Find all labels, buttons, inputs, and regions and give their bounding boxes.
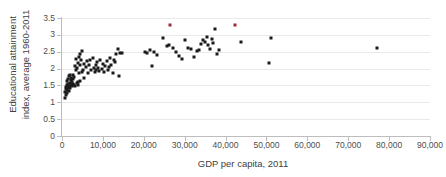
x-axis-tick — [430, 137, 431, 141]
data-point — [79, 79, 82, 82]
y-axis-title-line-2: index, average 1960-2011 — [19, 2, 32, 128]
x-axis-tick-label: 20,000 — [131, 140, 157, 150]
y-axis-tick-label: 1.5 — [33, 81, 55, 90]
data-point — [121, 52, 124, 55]
y-axis-tick-label: 3 — [33, 30, 55, 39]
data-point — [73, 76, 76, 79]
data-point — [207, 44, 210, 47]
data-point — [233, 23, 236, 26]
data-point — [175, 50, 178, 53]
y-axis-tick — [57, 119, 62, 120]
y-axis-tick — [57, 102, 62, 103]
data-point — [218, 49, 221, 52]
gridline — [62, 35, 430, 36]
data-point — [168, 43, 171, 46]
data-point — [155, 53, 158, 56]
x-axis-line — [61, 136, 431, 137]
data-point — [87, 64, 90, 67]
y-axis-tick — [57, 69, 62, 70]
x-axis-tick — [348, 137, 349, 141]
y-axis-title-line-1: Educational attainment — [7, 2, 20, 128]
data-point — [67, 90, 70, 93]
y-axis-tick-label: 3.5 — [33, 14, 55, 23]
y-axis-tick-label: 0.5 — [33, 115, 55, 124]
gridline — [62, 102, 430, 103]
data-point — [240, 40, 243, 43]
data-point — [209, 48, 212, 51]
data-point — [105, 60, 108, 63]
data-point — [86, 72, 89, 75]
data-point — [200, 43, 203, 46]
x-axis-tick — [226, 137, 227, 141]
data-point — [169, 24, 172, 27]
x-axis-tick-label: 40,000 — [213, 140, 239, 150]
x-axis-tick-label: 0 — [60, 140, 65, 150]
data-point — [375, 47, 378, 50]
data-point — [213, 28, 216, 31]
y-axis-tick-label: 2 — [33, 64, 55, 73]
gridline — [62, 69, 430, 70]
x-axis-tick-label: 10,000 — [90, 140, 116, 150]
x-axis-tick — [266, 137, 267, 141]
x-axis-tick-label: 90,000 — [417, 140, 443, 150]
data-point — [148, 49, 151, 52]
data-point — [81, 68, 84, 71]
data-point — [81, 50, 84, 53]
data-point — [114, 61, 117, 64]
data-point — [91, 57, 94, 60]
x-axis-tick-label: 50,000 — [253, 140, 279, 150]
data-point — [146, 51, 149, 54]
data-point — [267, 61, 270, 64]
y-axis-title: Educational attainment index, average 19… — [7, 2, 32, 128]
data-point — [104, 64, 107, 67]
x-axis-tick — [103, 137, 104, 141]
data-point — [85, 60, 88, 63]
data-point — [83, 76, 86, 79]
y-axis-tick-label: 2.5 — [33, 47, 55, 56]
data-point — [212, 42, 215, 45]
gridline — [62, 119, 430, 120]
x-axis-tick-labels: 010,00020,00030,00040,00050,00060,00070,… — [0, 140, 446, 154]
data-point — [181, 57, 184, 60]
data-point — [184, 39, 187, 42]
data-point — [215, 53, 218, 56]
data-point — [197, 49, 200, 52]
data-point — [76, 66, 79, 69]
data-point — [189, 48, 192, 51]
plot-area — [62, 18, 430, 136]
y-axis-tick — [57, 85, 62, 86]
x-axis-tick-label: 80,000 — [376, 140, 402, 150]
x-axis-tick — [307, 137, 308, 141]
data-point — [116, 48, 119, 51]
data-point — [63, 97, 66, 100]
y-axis-tick-label: 1 — [33, 98, 55, 107]
x-axis-tick — [389, 137, 390, 141]
data-point — [106, 68, 109, 71]
data-point — [78, 63, 81, 66]
data-point — [111, 71, 114, 74]
data-point — [150, 65, 153, 68]
data-point — [210, 37, 213, 40]
x-axis-tick — [185, 137, 186, 141]
x-axis-tick-label: 30,000 — [172, 140, 198, 150]
x-axis-tick — [62, 137, 63, 141]
data-point — [110, 63, 113, 66]
data-point — [103, 70, 106, 73]
x-axis-tick-label: 70,000 — [335, 140, 361, 150]
y-axis-tick — [57, 35, 62, 36]
x-axis-title: GDP per capita, 2011 — [0, 158, 446, 169]
data-point — [270, 36, 273, 39]
gridline — [62, 18, 430, 19]
data-point — [76, 83, 79, 86]
data-point — [205, 36, 208, 39]
data-point — [192, 55, 195, 58]
data-point — [78, 53, 81, 56]
x-axis-tick — [144, 137, 145, 141]
y-axis-tick — [57, 52, 62, 53]
data-point — [117, 74, 120, 77]
x-axis-tick-label: 60,000 — [294, 140, 320, 150]
data-point — [115, 53, 118, 56]
gridline — [62, 85, 430, 86]
y-axis-tick — [57, 18, 62, 19]
data-point — [162, 36, 165, 39]
